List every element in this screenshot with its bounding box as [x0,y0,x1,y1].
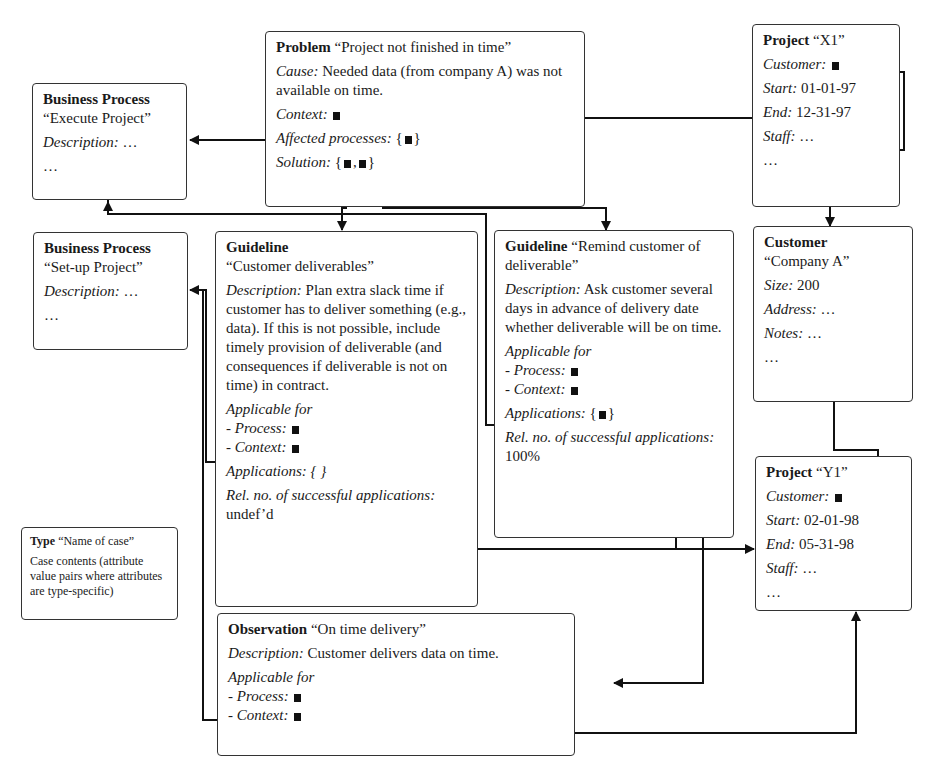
bp-execute-desc-value: … [123,134,138,150]
guideline-cd-type: Guideline [226,239,289,255]
project-y1[interactable]: Project “Y1” Customer: Start: 02-01-98 E… [755,456,912,611]
size-label: Size: [764,277,793,293]
problem-case[interactable]: Problem “Project not finished in time” C… [265,31,585,207]
context-link-handle[interactable] [294,713,301,721]
legend-box: Type “Name of case” Case contents (attri… [21,527,178,620]
bp-setup-desc-value: … [124,283,139,299]
process-link-handle[interactable] [571,368,578,376]
end-value: 05-31-98 [799,536,854,552]
process-label: - Process: [228,688,289,704]
applications-label: Applications: [226,463,307,479]
staff-label: Staff: [766,560,799,576]
cause-value: Needed data (from company A) was not ava… [276,63,562,98]
desc-label: Description: [228,645,304,661]
context-link-handle[interactable] [571,387,578,395]
staff-value: … [802,560,817,576]
bp-execute-name: “Execute Project” [43,110,151,126]
applications-value: { } [311,463,327,479]
observation-type: Observation [228,621,307,637]
project-x1-name: “X1” [813,32,845,48]
context-label: - Context: [228,707,288,723]
problem-name: “Project not finished in time” [334,39,511,55]
business-process-setup[interactable]: Business Process “Set-up Project” Descri… [33,232,188,350]
staff-value: … [799,128,814,144]
affected-processes-label: Affected processes: [276,130,392,146]
rel-value: undef’d [226,506,273,522]
start-label: Start: [763,80,797,96]
legend-type: Type [30,534,55,548]
solution-link-handle-2[interactable] [359,160,366,168]
process-link-handle[interactable] [292,426,299,434]
applicable-label: Applicable for [226,401,312,417]
staff-label: Staff: [763,128,796,144]
customer-link-handle[interactable] [835,494,842,502]
context-label: - Context: [226,439,286,455]
bp-setup-name: “Set-up Project” [44,259,143,275]
end-label: End: [766,536,795,552]
customer-label: Customer: [766,488,829,504]
legend-name: “Name of case” [58,534,134,548]
context-link-handle[interactable] [333,112,340,120]
bp-execute-type: Business Process [43,91,150,107]
guideline-remind-customer[interactable]: Guideline “Remind customer of deliverabl… [494,230,734,538]
desc-label: Description: [505,281,581,297]
notes-label: Notes: [764,325,803,341]
process-label: - Process: [226,420,287,436]
application-link-handle[interactable] [599,411,606,419]
start-value: 01-01-97 [801,80,856,96]
bp-execute-desc-label: Description: [43,134,119,150]
customer-name: “Company A” [764,253,849,269]
bp-execute-more: … [43,157,176,176]
rel-value: 100% [505,448,540,464]
customer-company-a[interactable]: Customer “Company A” Size: 200 Address: … [753,226,913,402]
project-y1-type: Project [766,464,812,480]
bp-setup-desc-label: Description: [44,283,120,299]
size-value: 200 [797,277,820,293]
desc-label: Description: [226,282,302,298]
solution-link-handle-1[interactable] [344,160,351,168]
applications-label: Applications: [505,405,586,421]
problem-type: Problem [276,39,331,55]
customer-label: Customer: [763,56,826,72]
business-process-execute[interactable]: Business Process “Execute Project” Descr… [32,83,187,200]
rel-label: Rel. no. of successful applications: [505,429,714,445]
start-value: 02-01-98 [804,512,859,528]
desc-value: Plan extra slack time if customer has to… [226,282,466,393]
end-value: 12-31-97 [796,104,851,120]
customer-type: Customer [764,234,827,250]
customer-more: … [764,348,902,367]
start-label: Start: [766,512,800,528]
context-link-handle[interactable] [292,445,299,453]
legend-contents: Case contents (attribute value pairs whe… [30,554,169,599]
observation-name: “On time delivery” [311,621,426,637]
project-y1-more: … [766,583,901,602]
process-link-handle[interactable] [294,694,301,702]
guideline-customer-deliverables[interactable]: Guideline “Customer deliverables” Descri… [215,231,478,607]
customer-link-handle[interactable] [832,62,839,70]
process-label: - Process: [505,362,566,378]
bp-setup-more: … [44,306,177,325]
observation-on-time-delivery[interactable]: Observation “On time delivery” Descripti… [217,613,575,756]
context-label: Context: [276,106,328,122]
solution-label: Solution: [276,154,331,170]
guideline-cd-name: “Customer deliverables” [226,258,374,274]
desc-value: Customer delivers data on time. [308,645,499,661]
project-x1-type: Project [763,32,809,48]
affected-process-link-handle[interactable] [405,136,412,144]
cause-label: Cause: [276,63,319,79]
applicable-label: Applicable for [228,669,314,685]
notes-value: … [807,325,822,341]
address-label: Address: [764,301,817,317]
address-value: … [821,301,836,317]
project-y1-name: “Y1” [816,464,848,480]
project-x1[interactable]: Project “X1” Customer: Start: 01-01-97 E… [752,24,900,207]
end-label: End: [763,104,792,120]
context-label: - Context: [505,381,565,397]
project-x1-more: … [763,151,889,170]
rel-label: Rel. no. of successful applications: [226,487,435,503]
bp-setup-type: Business Process [44,240,151,256]
guideline-rc-type: Guideline [505,238,568,254]
applicable-label: Applicable for [505,343,591,359]
